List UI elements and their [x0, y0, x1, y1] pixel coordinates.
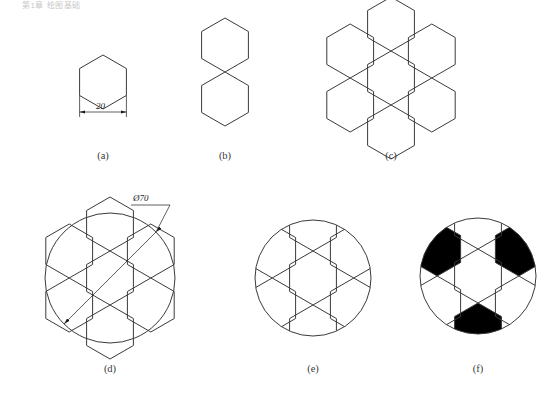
panel-a-dimension-label: 20	[96, 101, 105, 111]
caption-a: (a)	[83, 150, 123, 161]
caption-e: (e)	[293, 363, 333, 374]
panel-f-ball	[414, 195, 542, 357]
figure-canvas	[0, 0, 545, 394]
caption-d: (d)	[90, 363, 130, 374]
panel-c-honeycomb	[327, 0, 455, 159]
panel-b-hexagons	[202, 18, 249, 126]
caption-f: (f)	[458, 363, 498, 374]
caption-c: (c)	[371, 150, 411, 161]
panel-d-diameter-leader	[64, 205, 170, 324]
panel-e-pattern	[249, 197, 377, 359]
panel-d-dimension-label: Ø70	[133, 193, 149, 203]
caption-b: (b)	[205, 150, 245, 161]
